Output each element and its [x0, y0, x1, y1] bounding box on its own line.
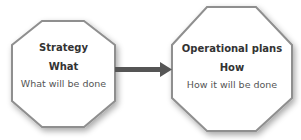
operational-node: Operational plans How How it will be don…	[172, 43, 292, 90]
operational-description: How it will be done	[172, 79, 292, 90]
strategy-question: What	[12, 61, 115, 72]
strategy-node: Strategy What What will be done	[12, 42, 115, 89]
strategy-description: What will be done	[12, 78, 115, 89]
strategy-title: Strategy	[12, 42, 115, 53]
operational-title: Operational plans	[172, 43, 292, 54]
arrow-icon	[115, 62, 172, 77]
operational-question: How	[172, 62, 292, 73]
